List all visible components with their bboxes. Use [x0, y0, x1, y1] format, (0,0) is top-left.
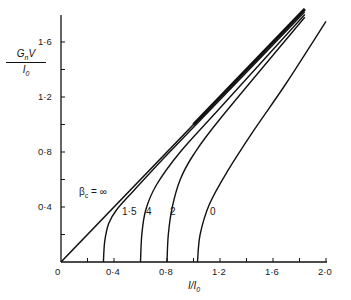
- y-tick-label: 0·8: [38, 146, 52, 157]
- y-tick-label: 1·2: [38, 91, 52, 102]
- y-axis-label: GnV I0: [6, 48, 46, 77]
- curve--c-1-5: [103, 12, 304, 262]
- curve--c-4: [141, 15, 305, 263]
- y-tick-label: 1·6: [38, 36, 52, 47]
- curves: [61, 9, 326, 262]
- curve-label-1-5: 1·5: [122, 206, 136, 217]
- chart-canvas: [0, 0, 351, 300]
- x-axis-label: I/I0: [188, 280, 200, 293]
- converged-curves-band: [194, 9, 305, 125]
- curve-label-0: 0: [210, 206, 216, 217]
- x-tick-label: 2·0: [318, 266, 332, 277]
- y-tick-label: 0·4: [38, 201, 52, 212]
- x-tick-label: 0: [55, 266, 60, 277]
- curve-label-4: 4: [146, 206, 152, 217]
- curve-label-2: 2: [170, 206, 176, 217]
- x-tick-label: 1·6: [265, 266, 279, 277]
- beta-infinity-label: βc = ∞: [79, 186, 107, 199]
- y-axis-label-numerator: GnV: [6, 48, 46, 63]
- ticks: [61, 42, 326, 262]
- x-tick-label: 0·8: [159, 266, 173, 277]
- curve--c-0: [197, 21, 326, 262]
- curve--c-2: [167, 17, 305, 262]
- axes: [61, 15, 327, 262]
- x-tick-label: 1·2: [212, 266, 226, 277]
- y-axis-label-denominator: I0: [6, 63, 46, 77]
- x-tick-label: 0·4: [106, 266, 120, 277]
